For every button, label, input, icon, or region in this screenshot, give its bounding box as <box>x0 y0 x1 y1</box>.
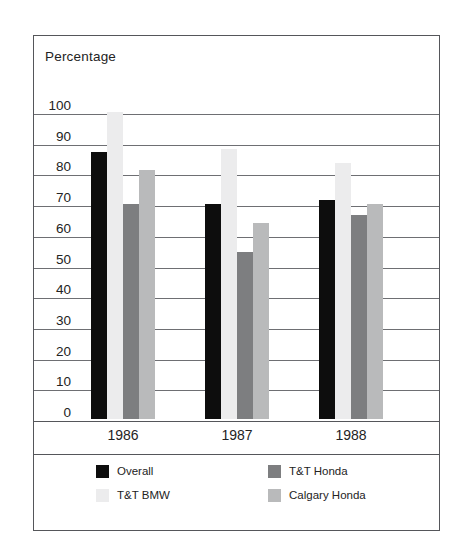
y-axis-tick-label: 80 <box>37 160 71 176</box>
legend-swatch-tt-bmw <box>96 489 109 502</box>
bar <box>123 204 139 419</box>
chart-figure-frame: Percentage 01020304050607080901001986198… <box>33 35 440 531</box>
legend-swatch-calgary-honda <box>268 489 281 502</box>
bar <box>237 252 253 419</box>
y-axis-tick-label: 20 <box>37 344 71 360</box>
y-axis-tick-label: 90 <box>37 129 71 145</box>
legend-entry-tt-bmw: T&T BMW <box>96 489 170 502</box>
y-axis-tick-label: 60 <box>37 221 71 237</box>
bar <box>253 223 269 419</box>
plot-area: 0102030405060708090100198619871988 <box>34 36 439 530</box>
legend-entry-calgary-honda: Calgary Honda <box>268 489 366 502</box>
legend-label-tt-honda: T&T Honda <box>289 466 348 478</box>
legend-label-overall: Overall <box>117 466 153 478</box>
legend-row: Overall T&T Honda <box>96 465 396 489</box>
y-axis-tick-label: 50 <box>37 252 71 268</box>
x-axis-tick-label: 1988 <box>306 427 396 443</box>
y-axis-tick-label: 100 <box>37 99 71 115</box>
bar <box>221 149 237 419</box>
legend-entry-tt-honda: T&T Honda <box>268 465 348 478</box>
legend-label-tt-bmw: T&T BMW <box>117 490 170 502</box>
bar <box>205 204 221 419</box>
gridline <box>34 145 439 146</box>
bar <box>335 163 351 419</box>
x-axis-tick-label: 1987 <box>192 427 282 443</box>
y-axis-tick-label: 70 <box>37 191 71 207</box>
y-axis-tick-label: 40 <box>37 283 71 299</box>
x-axis-tick-label: 1986 <box>78 427 168 443</box>
legend-entry-overall: Overall <box>96 465 153 478</box>
chart-legend: Overall T&T Honda T&T BMW Calgary Honda <box>96 465 396 513</box>
bar <box>319 200 335 420</box>
x-axis-band-divider <box>34 454 439 455</box>
bar <box>107 112 123 419</box>
bar <box>367 204 383 419</box>
bar <box>351 215 367 419</box>
legend-label-calgary-honda: Calgary Honda <box>289 490 366 502</box>
gridline <box>34 114 439 115</box>
y-axis-tick-label: 10 <box>37 375 71 391</box>
y-axis-tick-label: 0 <box>37 406 71 422</box>
bar <box>91 152 107 419</box>
gridline <box>34 421 439 422</box>
bar <box>139 170 155 419</box>
legend-swatch-overall <box>96 465 109 478</box>
y-axis-tick-label: 30 <box>37 313 71 329</box>
legend-swatch-tt-honda <box>268 465 281 478</box>
legend-row: T&T BMW Calgary Honda <box>96 489 396 513</box>
